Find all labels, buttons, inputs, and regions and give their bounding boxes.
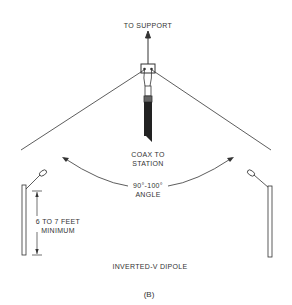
height-label-line2: MINIMUM bbox=[41, 227, 75, 234]
height-label-line1: 6 TO 7 FEET bbox=[36, 218, 81, 225]
support-label: TO SUPPORT bbox=[124, 22, 173, 29]
figure-caption: (B) bbox=[144, 290, 155, 299]
coax-label-line1: COAX TO bbox=[131, 151, 165, 158]
coax-cable bbox=[144, 86, 152, 142]
center-insulator bbox=[141, 64, 155, 73]
diagram-title: INVERTED-V DIPOLE bbox=[113, 263, 188, 270]
angle-label-line2: ANGLE bbox=[135, 191, 160, 198]
right-dipole-leg bbox=[152, 70, 271, 150]
inverted-v-dipole-diagram: TO SUPPORT COAX TO STATION 90°-100° ANGL… bbox=[0, 0, 292, 305]
angle-label-line1: 90°-100° bbox=[133, 182, 163, 189]
support-arrow bbox=[146, 31, 151, 64]
coax-label-line2: STATION bbox=[132, 160, 163, 167]
right-post bbox=[268, 186, 272, 257]
right-end-insulator bbox=[246, 169, 255, 178]
left-end-insulator bbox=[38, 169, 47, 178]
left-post bbox=[22, 185, 26, 255]
left-dipole-leg bbox=[21, 70, 144, 150]
